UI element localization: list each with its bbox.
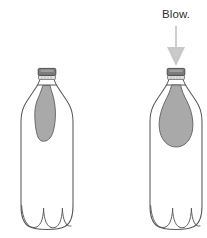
bottle-inflated-group [150,68,202,229]
blow-arrow-head-icon [167,47,185,66]
bottle-cap [38,68,56,75]
diagram-canvas: Blow. [0,0,207,238]
blow-annotation-group: Blow. [162,8,190,66]
blow-label: Blow. [162,8,190,20]
bottle-cap [167,68,185,75]
bottle-balloon-diagram: Blow. [0,0,207,238]
bottle-deflated-group [21,68,73,229]
